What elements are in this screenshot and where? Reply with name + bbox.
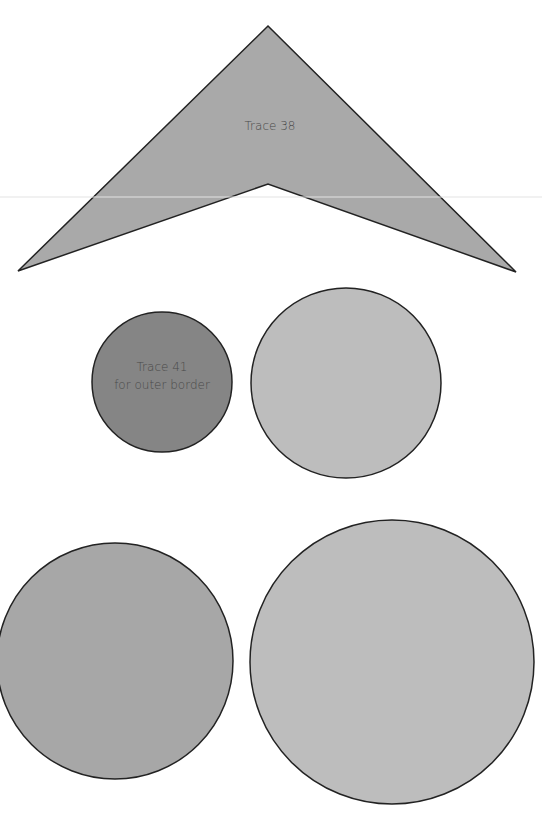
- trace-41-label-line1: Trace 41: [137, 360, 188, 374]
- trace-38-label: Trace 38: [245, 119, 296, 133]
- circle-2[interactable]: [251, 288, 441, 478]
- circle-4[interactable]: [250, 520, 534, 804]
- circle-3[interactable]: [0, 543, 233, 779]
- diagram-canvas: Trace 38 Trace 41for outer border: [0, 0, 542, 813]
- trace-41-label-line2: for outer border: [114, 378, 210, 392]
- trace-38-chevron[interactable]: [18, 26, 516, 272]
